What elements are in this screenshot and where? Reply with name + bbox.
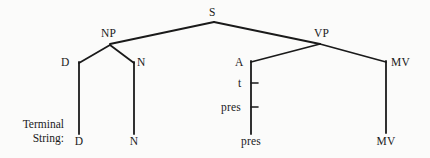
node-label-d: D [61,56,70,68]
terminal-n: N [114,135,154,147]
terminal-string-caption-line1: Terminal [4,118,64,132]
edge-vp-mv [320,44,386,62]
phrase-structure-tree-figure: S NP VP D N A t pres MV Terminal String:… [0,0,430,158]
terminal-mv: MV [361,135,411,147]
node-label-vp: VP [314,27,329,39]
edge-np-d [79,45,110,63]
edge-np-n [110,45,134,63]
edge-vp-a [251,44,320,62]
node-label-np: NP [101,27,116,39]
node-label-n: N [137,56,146,68]
edge-s-vp [214,22,320,44]
terminal-pres: pres [226,135,276,147]
node-label-t: t [238,77,241,89]
terminal-string-caption-line2: String: [4,132,64,146]
terminal-d: D [59,135,99,147]
node-label-a: A [235,56,244,68]
node-label-s: S [209,6,216,18]
terminal-string-caption: Terminal String: [4,118,64,145]
edge-s-np [110,22,214,44]
node-label-pres: pres [221,101,241,113]
node-label-mv: MV [391,56,410,68]
